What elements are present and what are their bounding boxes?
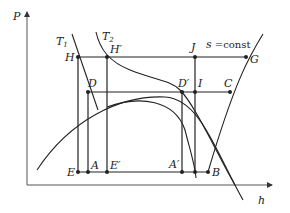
t2-label: T2 bbox=[102, 30, 114, 44]
point-E-label: E bbox=[66, 166, 75, 179]
point-H-label: H bbox=[64, 51, 75, 64]
point-D-label: D bbox=[87, 77, 97, 90]
point-J-label: J bbox=[189, 41, 196, 54]
point-C-label: C bbox=[224, 77, 233, 90]
point-A-label: A bbox=[90, 159, 99, 172]
x-axis-label: h bbox=[258, 194, 265, 207]
pressure-enthalpy-diagram: P h T1 T2 s =const H H′ J G D bbox=[0, 0, 290, 213]
point-A-prime-label: A′ bbox=[168, 158, 180, 171]
point-I-label: I bbox=[197, 77, 203, 90]
points bbox=[76, 55, 248, 174]
point-B-label: B bbox=[211, 166, 220, 179]
point-D-prime-label: D′ bbox=[177, 77, 190, 90]
y-axis-label: P bbox=[12, 10, 21, 23]
point-H-prime-label: H′ bbox=[109, 43, 123, 56]
t1-isotherm bbox=[72, 34, 98, 110]
point-G-label: G bbox=[250, 53, 259, 66]
s-const-label: s =const bbox=[206, 38, 250, 51]
point-E-prime-label: E′ bbox=[109, 159, 121, 172]
t1-label: T1 bbox=[56, 35, 68, 49]
